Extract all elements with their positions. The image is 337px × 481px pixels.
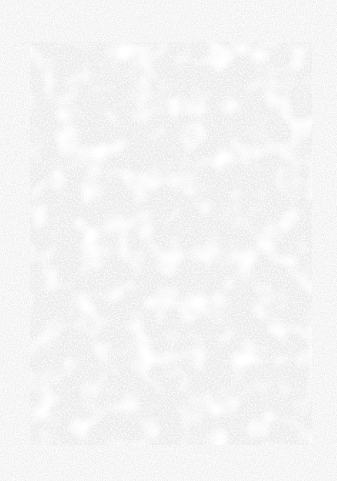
noisy-page xyxy=(0,0,337,481)
gray-textured-region xyxy=(30,42,312,445)
